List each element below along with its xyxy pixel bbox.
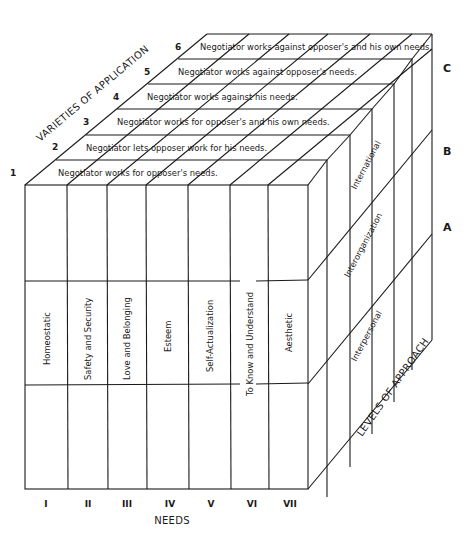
levels-axis-label: LEVELS OF APPROACH: [355, 336, 431, 438]
level-letter-a: A: [443, 221, 452, 234]
need-text-1: Homeostatic: [42, 312, 52, 365]
variety-num-3: 3: [83, 117, 89, 127]
level-text-b: Interorganization: [342, 211, 384, 279]
need-text-5: Self-Actualization: [205, 300, 215, 372]
need-num-4: IV: [165, 499, 175, 509]
variety-num-2: 2: [52, 142, 58, 152]
need-num-3: III: [122, 499, 132, 509]
level-text-a: Interpersonal: [349, 309, 384, 363]
level-letter-b: B: [443, 145, 451, 158]
levels: Interpersonal Interorganization Internat…: [342, 139, 384, 363]
variety-num-1: 1: [10, 168, 16, 178]
variety-text-5: Negotiator works against opposer's needs…: [178, 67, 357, 77]
need-num-6: VI: [247, 499, 257, 509]
variety-text-3: Negotiator works for opposer's and his o…: [117, 117, 330, 127]
need-num-2: II: [85, 499, 92, 509]
variety-text-2: Negotiator lets opposer work for his nee…: [86, 143, 267, 153]
needs-axis-label: NEEDS: [154, 515, 190, 526]
negotiation-cube-diagram: 1 Negotiator works for opposer's needs. …: [0, 0, 468, 542]
needs-numerals: I II III IV V VI VII: [44, 499, 297, 509]
need-num-5: V: [208, 499, 215, 509]
need-text-3: Love and Belonging: [122, 297, 132, 380]
need-text-6: To Know and Understand: [245, 292, 255, 397]
variety-num-5: 5: [144, 67, 150, 77]
need-num-7: VII: [283, 499, 297, 509]
need-text-7: Aesthetic: [284, 313, 294, 352]
need-num-1: I: [44, 499, 47, 509]
level-letter-c: C: [443, 62, 451, 75]
variety-num-4: 4: [113, 92, 119, 102]
need-text-2: Safety and Security: [83, 298, 93, 380]
level-text-c: International: [349, 139, 383, 191]
variety-num-6: 6: [175, 42, 181, 52]
variety-text-4: Negotiator works against his needs.: [147, 92, 298, 102]
need-text-4: Esteem: [163, 321, 173, 352]
variety-text-6: Negotiator works against opposer's and h…: [200, 42, 432, 52]
variety-text-1: Negotiator works for opposer's needs.: [58, 168, 218, 178]
